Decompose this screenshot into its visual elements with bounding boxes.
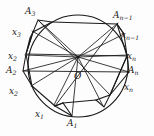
inner-chords-group [23, 20, 129, 106]
vertex-label-An: An [128, 66, 139, 75]
side-label-xn-top: xn [127, 52, 136, 61]
chord-bottom-right [63, 100, 96, 103]
vertex-label-A3: A3 [25, 7, 35, 16]
radius-to-A1 [72, 57, 78, 116]
vertex-label-A2: A2 [6, 66, 16, 75]
side-label-x1: x1 [35, 110, 44, 119]
vertex-label-An-1: An−1 [113, 11, 133, 20]
side-label-x3: x3 [12, 28, 21, 37]
radius-to-c3 [32, 31, 78, 57]
radius-to-A2 [23, 57, 78, 71]
center-point-group [76, 55, 79, 58]
geometry-figure: A3 An−1 x3 xn−1 x2 xn A2 An O x2 xn x1 A… [0, 0, 154, 136]
center-dot [76, 55, 79, 58]
chord-top-right [52, 22, 117, 24]
center-label-O: O [74, 72, 81, 81]
vertex-label-A1: A1 [67, 119, 77, 128]
side-label-xn-bottom: xn [124, 83, 133, 92]
side-label-x2-top: x2 [8, 52, 17, 61]
chord-A3-to-center-right [38, 20, 110, 95]
side-label-xn-1: xn−1 [121, 31, 139, 40]
side-label-x2-bottom: x2 [9, 87, 18, 96]
radius-to-A3 [38, 20, 78, 57]
chord-x3 [26, 32, 33, 54]
